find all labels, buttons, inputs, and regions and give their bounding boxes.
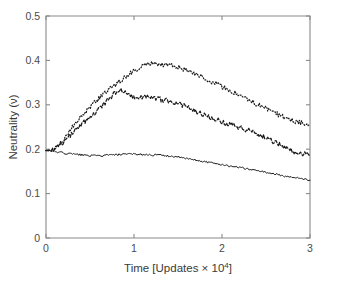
series-dashed [46,88,310,155]
x-tick-label: 3 [307,242,313,254]
x-tick-label: 1 [131,242,137,254]
x-label-base: Time [Updates × 10 [124,262,224,274]
data-series [46,62,310,181]
x-tick-label: 0 [43,242,49,254]
y-tick-label: 0.5 [25,10,40,22]
series-dotted [46,62,310,151]
y-tick-label: 0 [34,232,40,244]
tick-marks [46,16,310,238]
y-tick-label: 0.2 [25,143,40,155]
y-axis-label: Neutrality (ν) [7,94,19,159]
axes [46,16,310,238]
y-tick-label: 0.3 [25,98,40,110]
axis-box [46,16,310,238]
x-tick-label: 2 [219,242,225,254]
series-solid [46,151,310,181]
y-tick-label: 0.4 [25,54,40,66]
x-axis-label: Time [Updates × 104] [124,261,232,274]
chart-figure: 012300.10.20.30.40.5 Time [Updates × 104… [0,0,338,281]
x-label-tail: ] [229,262,232,274]
y-tick-label: 0.1 [25,187,40,199]
chart-canvas: 012300.10.20.30.40.5 Time [Updates × 104… [0,0,338,281]
